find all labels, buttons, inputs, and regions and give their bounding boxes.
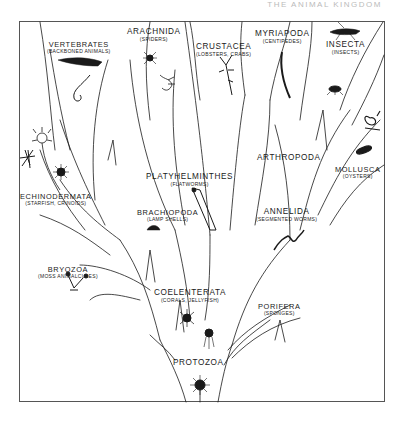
taxon-name: VERTEBRATES [47, 41, 111, 48]
label-arachnida: ARACHNIDA (SPIDERS) [127, 28, 181, 42]
oyster-icon [355, 144, 372, 155]
taxon-name: MYRIAPODA [255, 30, 310, 38]
taxon-name: PROTOZOA [173, 359, 224, 367]
label-coelenterata: COELENTERATA (CORALS, JELLYFISH) [154, 289, 226, 303]
lamp-shell-icon [147, 226, 160, 231]
label-brachiopoda: BRACHIOPODA (LAMP SHELLS) [137, 209, 198, 222]
taxon-name: CRUSTACEA [196, 43, 251, 51]
snail-icon [365, 111, 380, 130]
label-porifera: PORIFERA (SPONGES) [258, 303, 301, 316]
label-arthropoda: ARTHROPODA [257, 154, 321, 162]
label-echinodermata: ECHINODERMATA (STARFISH, CRINOIDS) [20, 193, 92, 206]
taxon-common-name: (SPONGES) [258, 311, 301, 316]
label-myriapoda: MYRIAPODA (CENTIPEDES) [255, 30, 310, 44]
taxon-name: MOLLUSCA [335, 166, 380, 173]
taxon-common-name: (CORALS, JELLYFISH) [154, 298, 226, 303]
taxon-name: BRYOZOA [38, 266, 98, 273]
taxon-common-name: (STARFISH, CRINOIDS) [20, 201, 92, 206]
taxon-name: ARACHNIDA [127, 28, 181, 36]
taxon-common-name: (LAMP SHELLS) [137, 217, 198, 222]
taxon-name: PLATYHELMINTHES [146, 173, 233, 181]
label-insecta: INSECTA (INSECTS) [326, 41, 365, 55]
sea-urchin-icon [53, 164, 69, 180]
taxon-common-name: (MOSS ANIMALCULES) [38, 274, 98, 279]
chordate-icon [74, 75, 90, 101]
taxon-common-name: (OYSTERS) [335, 174, 380, 179]
taxon-name: BRACHIOPODA [137, 209, 198, 216]
grasshopper-icon [330, 22, 360, 40]
scorpion-icon [160, 75, 175, 90]
label-vertebrates: VERTEBRATES (BACKBONED ANIMALS) [47, 41, 111, 54]
radiolarian-icon [190, 375, 210, 395]
taxon-common-name: (INSECTS) [326, 50, 365, 55]
taxon-common-name: (CENTIPEDES) [255, 39, 310, 44]
taxon-common-name: (LOBSTERS, CRABS) [196, 52, 251, 57]
label-bryozoa: BRYOZOA (MOSS ANIMALCULES) [38, 266, 98, 279]
label-crustacea: CRUSTACEA (LOBSTERS, CRABS) [196, 43, 251, 57]
taxon-common-name: (BACKBONED ANIMALS) [47, 49, 111, 54]
crinoid-icon [32, 127, 60, 190]
label-mollusca: MOLLUSCA (OYSTERS) [335, 166, 380, 179]
tree-of-life-diagram: THE ANIMAL KINGDOM [0, 0, 402, 422]
coral-polyp-icon [180, 309, 194, 327]
taxon-name: INSECTA [326, 41, 365, 49]
taxon-common-name: (SPIDERS) [127, 37, 181, 42]
ant-icon [327, 86, 343, 95]
earthworm-icon [274, 230, 304, 250]
label-annelida: ANNELIDA (SEGMENTED WORMS) [256, 208, 317, 222]
lobster-icon [219, 55, 234, 95]
taxon-name: PORIFERA [258, 303, 301, 310]
taxon-name: COELENTERATA [154, 289, 226, 297]
jellyfish-icon [204, 329, 214, 349]
taxon-name: ARTHROPODA [257, 154, 321, 162]
taxon-name: ECHINODERMATA [20, 193, 92, 200]
fish-icon [58, 58, 102, 66]
spider-icon [143, 52, 157, 64]
taxon-name: ANNELIDA [256, 208, 317, 216]
starfish-icon [20, 150, 35, 168]
centipede-icon [281, 52, 290, 98]
label-platyhelminthes: PLATYHELMINTHES (FLATWORMS) [146, 173, 233, 187]
label-protozoa: PROTOZOA [173, 359, 224, 367]
taxon-common-name: (SEGMENTED WORMS) [256, 217, 317, 222]
taxon-common-name: (FLATWORMS) [146, 182, 233, 187]
